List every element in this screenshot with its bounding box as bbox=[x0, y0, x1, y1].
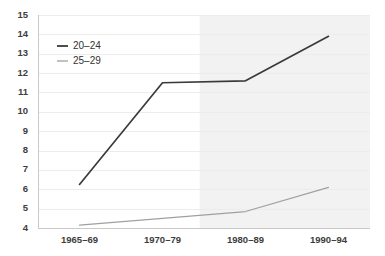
y-axis-tick-label: 7 bbox=[23, 163, 28, 174]
y-axis-tick-label: 15 bbox=[17, 9, 28, 20]
legend-label-0: 20–24 bbox=[73, 40, 101, 51]
y-axis-tick-label: 13 bbox=[17, 47, 28, 58]
y-axis-tick-label: 8 bbox=[23, 144, 28, 155]
x-axis-tick-label: 1980–89 bbox=[227, 234, 264, 245]
shaded-region bbox=[200, 15, 370, 228]
x-axis-tick-label: 1990–94 bbox=[310, 234, 348, 245]
chart-canvas: 456789101112131415 1965–691970–791980–89… bbox=[0, 0, 385, 256]
y-axis-tick-label: 14 bbox=[17, 28, 28, 39]
y-axis-tick-label: 5 bbox=[23, 202, 29, 213]
shaded-region-group bbox=[200, 15, 370, 228]
y-axis-tick-label: 12 bbox=[17, 67, 28, 78]
y-axis-tick-label: 9 bbox=[23, 125, 28, 136]
y-axis-tick-label: 6 bbox=[23, 183, 28, 194]
y-axis-tick-label: 10 bbox=[17, 105, 28, 116]
chart-legend: 20–2425–29 bbox=[57, 40, 101, 66]
x-axis-tick-labels: 1965–691970–791980–891990–94 bbox=[61, 234, 348, 245]
y-axis-tick-labels: 456789101112131415 bbox=[17, 9, 28, 233]
x-axis-tick-label: 1965–69 bbox=[61, 234, 98, 245]
x-axis-tick-label: 1970–79 bbox=[144, 234, 181, 245]
y-axis-tick-label: 4 bbox=[23, 222, 29, 233]
y-axis-tick-label: 11 bbox=[18, 86, 29, 97]
line-chart: 456789101112131415 1965–691970–791980–89… bbox=[0, 0, 385, 256]
legend-label-1: 25–29 bbox=[73, 55, 101, 66]
